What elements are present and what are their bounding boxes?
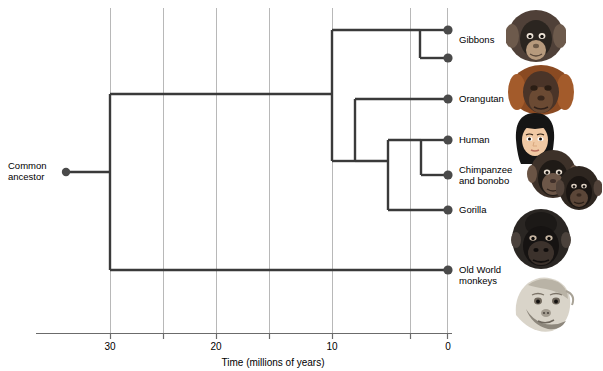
label-orangutan: Orangutan [459, 93, 504, 104]
label-gibbons: Gibbons [459, 34, 494, 45]
axis-tick-label-0: 0 [436, 341, 460, 352]
label-gorilla: Gorilla [459, 204, 486, 215]
tip-node-gorilla [443, 205, 452, 214]
axis-tick-label-20: 20 [204, 341, 228, 352]
label-chimpanzee: Chimpanzee and bonobo [459, 164, 521, 186]
old-world-monkey-portrait [508, 273, 578, 335]
tree-branches [66, 30, 447, 270]
bonobo-portrait [556, 164, 602, 212]
tip-node-chimpanzee [443, 170, 452, 179]
axis-tick-label-10: 10 [320, 341, 344, 352]
tip-node-human [443, 135, 452, 144]
tip-node-gibbon-1 [443, 25, 452, 34]
tip-node-gibbon-2 [443, 53, 452, 62]
phylogenetic-tree-figure: Common ancestor Gibbons Orangutan Human … [0, 0, 603, 371]
time-axis [36, 334, 452, 340]
tip-node-orangutan [443, 94, 452, 103]
gridlines [111, 8, 448, 333]
axis-tick-label-30: 30 [98, 341, 122, 352]
label-common-ancestor: Common ancestor [8, 160, 68, 182]
label-human: Human [459, 134, 490, 145]
tip-node-old-world-monkeys [443, 265, 452, 274]
axis-title: Time (millions of years) [178, 357, 368, 368]
gibbon-portrait [506, 6, 566, 64]
gorilla-portrait [510, 208, 572, 270]
tree-nodes [62, 25, 453, 274]
